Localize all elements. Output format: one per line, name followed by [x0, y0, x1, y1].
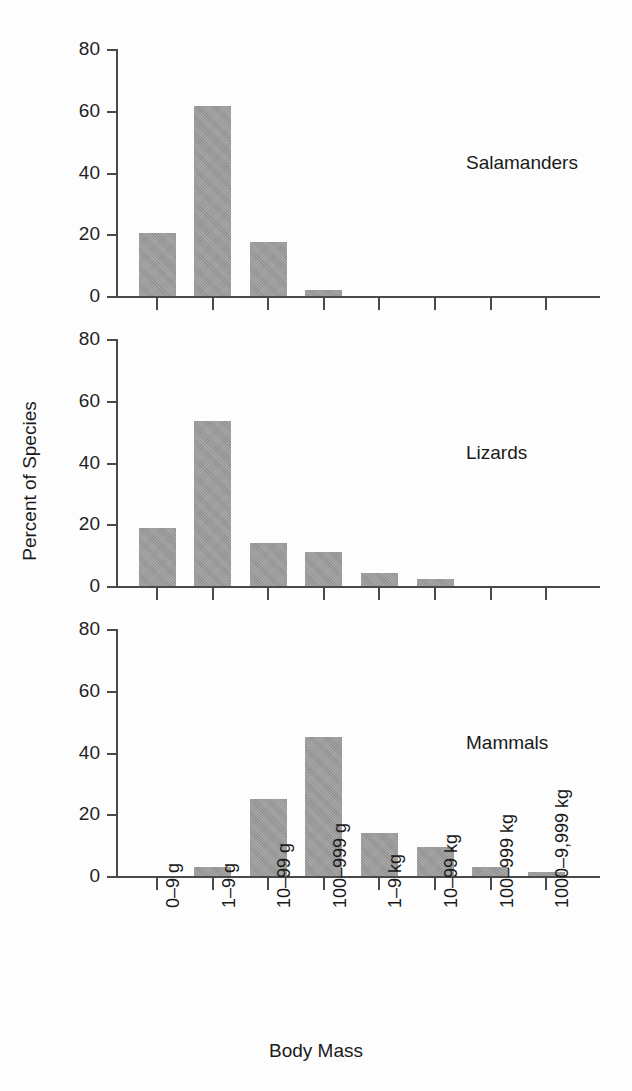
y-tick-40: 40 — [107, 463, 116, 465]
y-tick-label-40: 40 — [79, 453, 100, 472]
x-tick-label-1: 1–9 g — [220, 863, 238, 908]
y-tick-0: 0 — [107, 876, 116, 878]
x-tick-5 — [434, 588, 436, 600]
x-tick-7 — [545, 878, 547, 890]
y-tick-label-20: 20 — [79, 514, 100, 533]
y-tick-label-60: 60 — [79, 391, 100, 410]
x-tick-4 — [378, 878, 380, 890]
x-tick-0 — [156, 588, 158, 600]
bar — [250, 543, 287, 586]
y-tick-40: 40 — [107, 753, 116, 755]
x-tick-3 — [323, 588, 325, 600]
y-tick-20: 20 — [107, 524, 116, 526]
y-axis-line — [116, 629, 118, 878]
panel-label-mammals: Mammals — [466, 733, 548, 752]
y-tick-0: 0 — [107, 586, 116, 588]
y-axis-line — [116, 49, 118, 298]
bar — [417, 579, 454, 586]
x-tick-5 — [434, 298, 436, 310]
x-axis-title: Body Mass — [0, 1040, 632, 1062]
x-tick-1 — [212, 878, 214, 890]
x-tick-label-7: 1000–9,999 kg — [553, 789, 571, 908]
y-tick-label-0: 0 — [89, 866, 100, 885]
x-tick-2 — [267, 588, 269, 600]
panel-lizards: 020406080 Lizards — [0, 326, 632, 616]
x-tick-2 — [267, 298, 269, 310]
panel-salamanders: 020406080 Salamanders — [0, 36, 632, 326]
x-tick-6 — [490, 298, 492, 310]
bar — [194, 106, 231, 296]
x-tick-label-6: 100–999 kg — [498, 814, 516, 908]
y-tick-label-80: 80 — [79, 619, 100, 638]
x-tick-label-0: 0–9 g — [164, 863, 182, 908]
y-tick-40: 40 — [107, 173, 116, 175]
y-tick-label-0: 0 — [89, 576, 100, 595]
y-tick-80: 80 — [107, 339, 116, 341]
x-axis-line — [116, 296, 600, 298]
x-tick-2 — [267, 878, 269, 890]
plot-area-lizards: 020406080 — [116, 339, 600, 594]
y-tick-label-40: 40 — [79, 163, 100, 182]
bar — [139, 528, 176, 586]
y-tick-20: 20 — [107, 234, 116, 236]
bar — [305, 290, 342, 296]
y-tick-label-80: 80 — [79, 329, 100, 348]
bar — [194, 421, 231, 586]
x-tick-label-group: 0–9 g1–9 g10–99 g100–999 g1–9 kg10–99 kg… — [116, 908, 600, 1038]
bar — [361, 573, 398, 586]
bar — [250, 242, 287, 296]
x-axis-line — [116, 586, 600, 588]
panel-label-salamanders: Salamanders — [466, 153, 578, 172]
x-tick-7 — [545, 298, 547, 310]
x-tick-0 — [156, 878, 158, 890]
plot-area-mammals: 020406080 — [116, 629, 600, 884]
x-tick-1 — [212, 298, 214, 310]
x-tick-3 — [323, 878, 325, 890]
y-tick-60: 60 — [107, 691, 116, 693]
bar — [139, 233, 176, 296]
y-tick-80: 80 — [107, 629, 116, 631]
panel-mammals: 020406080 Mammals — [0, 616, 632, 906]
y-tick-80: 80 — [107, 49, 116, 51]
x-tick-6 — [490, 878, 492, 890]
y-tick-label-20: 20 — [79, 804, 100, 823]
x-tick-label-4: 1–9 kg — [386, 854, 404, 908]
x-tick-label-2: 10–99 g — [275, 843, 293, 908]
x-tick-4 — [378, 298, 380, 310]
panel-label-lizards: Lizards — [466, 443, 527, 462]
y-axis-line — [116, 339, 118, 588]
y-tick-0: 0 — [107, 296, 116, 298]
x-tick-1 — [212, 588, 214, 600]
y-tick-label-0: 0 — [89, 286, 100, 305]
y-tick-60: 60 — [107, 111, 116, 113]
bar — [305, 552, 342, 586]
x-axis-line — [116, 876, 600, 878]
x-tick-label-3: 100–999 g — [331, 823, 349, 908]
y-tick-label-80: 80 — [79, 39, 100, 58]
plot-area-salamanders: 020406080 — [116, 49, 600, 304]
y-tick-label-60: 60 — [79, 681, 100, 700]
y-tick-60: 60 — [107, 401, 116, 403]
x-tick-label-5: 10–99 kg — [442, 834, 460, 908]
y-tick-label-40: 40 — [79, 743, 100, 762]
x-tick-7 — [545, 588, 547, 600]
x-tick-0 — [156, 298, 158, 310]
x-tick-4 — [378, 588, 380, 600]
figure-bar-chart-body-mass-distribution: 020406080 Salamanders 020406080 Lizards … — [0, 0, 632, 1091]
x-tick-3 — [323, 298, 325, 310]
y-tick-20: 20 — [107, 814, 116, 816]
y-tick-label-20: 20 — [79, 224, 100, 243]
x-tick-5 — [434, 878, 436, 890]
y-tick-label-60: 60 — [79, 101, 100, 120]
x-tick-6 — [490, 588, 492, 600]
